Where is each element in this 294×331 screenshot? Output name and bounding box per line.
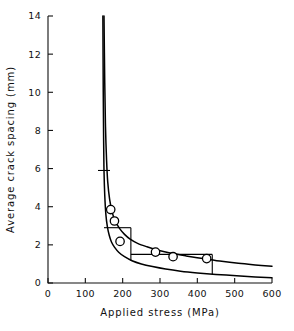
x-axis-title: Applied stress (MPa): [100, 307, 220, 318]
data-point-5: [169, 252, 177, 260]
x-tick-label: 400: [188, 288, 207, 299]
y-tick-label: 12: [28, 49, 41, 60]
x-tick-label: 100: [76, 288, 95, 299]
data-point-1: [107, 205, 115, 213]
y-tick-label: 14: [28, 10, 41, 21]
y-axis-title: Average crack spacing (mm): [5, 66, 16, 233]
x-tick-label: 0: [45, 288, 51, 299]
y-tick-label: 4: [35, 201, 41, 212]
chart-figure: 024681012140100200300400500600 Applied s…: [0, 0, 294, 331]
y-tick-label: 10: [28, 87, 41, 98]
curve-upper-bound-curve: [104, 16, 272, 266]
data-point-6: [202, 254, 210, 262]
axis-lines: [48, 16, 272, 283]
x-tick-label: 600: [262, 288, 281, 299]
data-point-2: [110, 217, 118, 225]
y-tick-label: 6: [35, 163, 41, 174]
y-tick-label: 2: [35, 239, 41, 250]
data-point-4: [151, 248, 159, 256]
x-tick-label: 200: [113, 288, 132, 299]
x-tick-label: 500: [225, 288, 244, 299]
x-tick-label: 300: [150, 288, 169, 299]
crack-spacing-plot: 024681012140100200300400500600 Applied s…: [0, 0, 294, 331]
y-tick-label: 0: [35, 277, 41, 288]
data-point-3: [116, 237, 124, 245]
y-tick-label: 8: [35, 125, 41, 136]
curve-series: [103, 16, 272, 278]
